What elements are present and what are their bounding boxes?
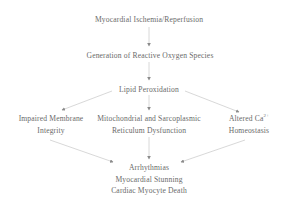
calcium-charge-superscript: 2+ xyxy=(263,113,269,118)
node-ischemia-reperfusion: Myocardial Ischemia/Reperfusion xyxy=(95,14,203,26)
node-label-line-1: Impaired Membrane xyxy=(19,113,84,125)
node-reactive-oxygen-species: Generation of Reactive Oxygen Species xyxy=(86,50,213,62)
node-label: Lipid Peroxidation xyxy=(119,84,179,96)
node-mitochondrial-sr-dysfunction: Mitochondrial and Sarcoplasmic Reticulum… xyxy=(97,113,201,136)
outcome-cardiac-myocyte-death: Cardiac Myocyte Death xyxy=(111,185,187,197)
node-label-line-2: Reticulum Dysfunction xyxy=(97,125,201,137)
node-altered-calcium-homeostasis: Altered Ca2+ Homeostasis xyxy=(229,113,269,136)
outcome-myocardial-stunning: Myocardial Stunning xyxy=(111,174,187,186)
edge-calcium-outcome xyxy=(181,140,245,162)
node-impaired-membrane-integrity: Impaired Membrane Integrity xyxy=(19,113,84,136)
node-label-line-2: Homeostasis xyxy=(229,125,269,137)
outcome-arrhythmias: Arrhythmias xyxy=(111,162,187,174)
calcium-label-prefix: Altered Ca xyxy=(229,114,264,123)
edge-lipid-membrane xyxy=(62,91,112,110)
node-label: Generation of Reactive Oxygen Species xyxy=(86,50,213,62)
node-outcomes: Arrhythmias Myocardial Stunning Cardiac … xyxy=(111,162,187,197)
node-label-line-1: Altered Ca2+ xyxy=(229,113,269,125)
node-lipid-peroxidation: Lipid Peroxidation xyxy=(119,84,179,96)
node-label-line-2: Integrity xyxy=(19,125,84,137)
edge-membrane-outcome xyxy=(50,140,113,162)
node-label: Myocardial Ischemia/Reperfusion xyxy=(95,14,203,26)
edge-lipid-calcium xyxy=(185,91,239,112)
node-label-line-1: Mitochondrial and Sarcoplasmic xyxy=(97,113,201,125)
